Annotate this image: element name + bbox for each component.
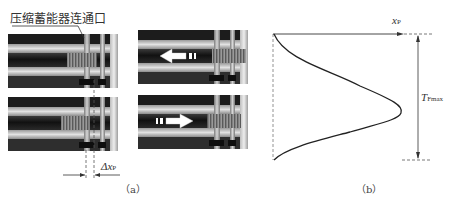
accumulator-port-callout: 压缩蓄能器连通口	[10, 9, 106, 26]
panel-a-graphics	[8, 26, 120, 178]
panel-b-plot	[273, 32, 432, 160]
x-axis-subscript: P	[397, 18, 401, 26]
displacement-subscript: P	[112, 164, 116, 172]
displacement-label: ΔxP	[101, 160, 116, 172]
peak-torque-subscript: Fmax	[427, 95, 443, 103]
peak-torque-label: TFmax	[421, 91, 443, 103]
figure-graphics	[0, 0, 450, 208]
figure-root: 压缩蓄能器连通口 ΔxP （a） xP TFmax （b）	[0, 0, 450, 208]
caption-b: （b）	[356, 181, 382, 196]
x-axis-label: xP	[392, 14, 401, 26]
panel-b-cylinders	[138, 30, 248, 149]
displacement-symbol: Δx	[101, 160, 112, 172]
caption-a: （a）	[120, 181, 146, 196]
